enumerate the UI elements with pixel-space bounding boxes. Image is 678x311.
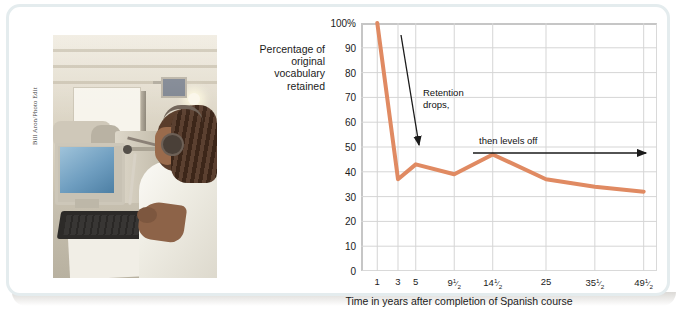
photo-support-pole — [141, 91, 146, 133]
arrow-retention-drops — [401, 35, 419, 145]
y-tick-label: 10 — [345, 241, 356, 252]
y-tick-label: 30 — [345, 191, 356, 202]
y-tick-label: 60 — [345, 117, 356, 128]
photo-microphone — [123, 145, 132, 154]
figure-frame: Bill Aron/Photo Edit — [6, 4, 670, 296]
y-tick-label: 70 — [345, 92, 356, 103]
language-lab-photo — [53, 35, 217, 278]
x-tick-label: 141⁄2 — [483, 276, 502, 289]
photo-student-hand — [137, 207, 157, 223]
photo-ceiling-beam — [53, 81, 217, 84]
y-tick-label: 100% — [330, 18, 356, 29]
y-tick-label: 80 — [345, 67, 356, 78]
photo-monitor-screen — [60, 147, 114, 193]
plot-wrapper: 100%9080706050403020100 13591⁄2141⁄22535… — [361, 23, 657, 271]
photo-headset-earcup — [161, 133, 184, 156]
x-tick-label: 25 — [541, 276, 552, 287]
x-tick-label: 5 — [413, 276, 418, 287]
y-tick-label: 40 — [345, 166, 356, 177]
annotation-arrows — [361, 23, 657, 271]
photo-ceiling-beam — [53, 65, 217, 68]
photo-ceiling-lamp — [188, 93, 200, 105]
x-tick-label: 351⁄2 — [585, 276, 604, 289]
x-axis-title: Time in years after completion of Spanis… — [309, 295, 609, 307]
y-axis-title: Percentage of original vocabulary retain… — [241, 43, 325, 92]
photo-wall-monitor — [161, 77, 187, 98]
photo-ceiling-beam — [53, 49, 217, 52]
retention-line-chart: Percentage of original vocabulary retain… — [241, 23, 673, 301]
photo-credit: Bill Aron/Photo Edit — [31, 35, 38, 145]
x-tick-label: 91⁄2 — [447, 276, 461, 289]
y-tick-label: 50 — [345, 142, 356, 153]
photo-keyboard-keys — [63, 215, 146, 235]
x-tick-label: 491⁄2 — [634, 276, 653, 289]
photo-block: Bill Aron/Photo Edit — [47, 35, 217, 278]
y-tick-label: 90 — [345, 42, 356, 53]
x-tick-label: 1 — [375, 276, 380, 287]
photo-papers — [68, 233, 148, 278]
x-tick-label: 3 — [395, 276, 400, 287]
y-tick-label: 0 — [350, 266, 356, 277]
y-tick-label: 20 — [345, 216, 356, 227]
photo-monitor-stand — [75, 199, 99, 208]
